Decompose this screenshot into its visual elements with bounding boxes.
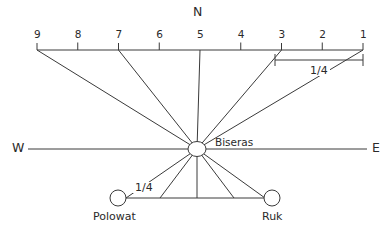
scale-label-3: 3 [279, 29, 286, 40]
polowat-node-label: Polowat [93, 211, 136, 222]
scale-label-9: 9 [34, 29, 41, 40]
ray-to-ruk [197, 149, 265, 198]
cardinal-north-label: N [193, 6, 202, 19]
ray-to-7 [119, 50, 198, 149]
scale-label-5: 5 [197, 29, 204, 40]
scale-label-4: 4 [238, 29, 245, 40]
polowat-node [110, 190, 126, 206]
biseras-node-label: Biseras [215, 137, 253, 148]
diagram-canvas: N 9 8 7 6 5 4 3 2 1 1/4 W E Biseras 1/4 … [0, 0, 392, 231]
ray-to-1 [197, 50, 363, 149]
ray-to-3 [197, 50, 282, 149]
ray-to-9 [37, 50, 197, 149]
cardinal-east-label: E [372, 142, 380, 155]
star-compass-vector [0, 0, 392, 231]
scale-label-1: 1 [360, 29, 367, 40]
ray-lower-right-b [197, 149, 234, 198]
scale-label-6: 6 [156, 29, 163, 40]
cardinal-west-label: W [12, 142, 24, 155]
scale-label-7: 7 [116, 29, 123, 40]
ruk-node-label: Ruk [262, 211, 283, 222]
ray-to-5 [197, 50, 200, 149]
scale-label-2: 2 [319, 29, 326, 40]
bracket-bottom-fraction-label: 1/4 [133, 182, 155, 193]
biseras-node [188, 142, 206, 157]
ruk-node [264, 190, 280, 206]
scale-label-8: 8 [75, 29, 82, 40]
ray-lower-left-b [160, 149, 197, 198]
bracket-top-fraction-label: 1/4 [308, 65, 330, 76]
